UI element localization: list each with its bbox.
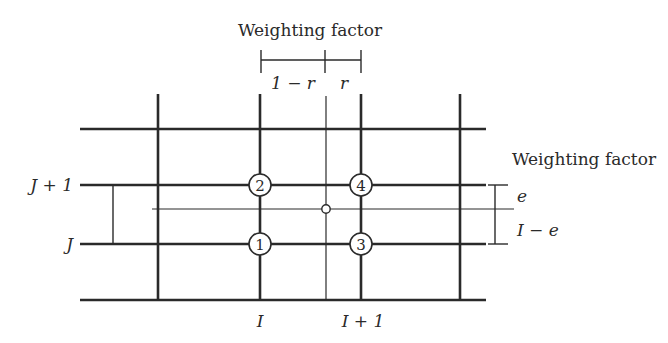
weight-one-minus-r-label: 1 − r (271, 73, 316, 93)
node-3-label: 3 (356, 236, 366, 254)
column-label-i: I (256, 311, 264, 331)
node-1: 1 (249, 233, 271, 255)
column-label-i-plus-1: I + 1 (341, 311, 385, 331)
weight-e-label: e (517, 186, 527, 206)
top-weighting-bracket (261, 50, 361, 73)
right-weighting-bracket (488, 185, 508, 244)
vertical-grid-lines (158, 94, 460, 300)
weight-one-minus-e-label: I − e (516, 220, 559, 240)
row-label-j: J (63, 234, 74, 254)
right-weighting-factor-title: Weighting factor (512, 149, 657, 169)
node-4-label: 4 (356, 177, 366, 195)
bilinear-interpolation-grid-diagram: Weighting factor 1 − r r Weighting facto… (0, 0, 668, 343)
node-4: 4 (350, 174, 372, 196)
node-1-label: 1 (255, 236, 265, 254)
node-2-label: 2 (255, 177, 265, 195)
node-2: 2 (249, 174, 271, 196)
horizontal-grid-lines (80, 129, 486, 300)
top-weighting-factor-title: Weighting factor (238, 20, 383, 40)
interpolation-point-icon (322, 205, 330, 213)
row-label-j-plus-1: J + 1 (27, 175, 73, 195)
node-3: 3 (350, 233, 372, 255)
weight-r-label: r (340, 73, 349, 93)
